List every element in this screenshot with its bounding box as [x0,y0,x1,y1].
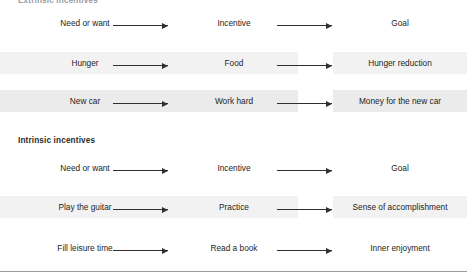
arrow-incentive-to-goal [277,206,332,213]
arrow-shaft [277,25,332,26]
cell-goal: Goal [333,157,467,179]
arrow-shaft [277,250,332,251]
diagram-row: Fill leisure time Read a book Inner enjo… [0,237,467,259]
arrow-source-to-incentive [113,247,168,254]
arrow-source-to-incentive [113,167,168,174]
diagram-row: Need or want Incentive Goal [0,157,467,179]
cell-goal: Hunger reduction [333,52,467,74]
arrow-incentive-to-goal [277,62,332,69]
arrowhead-icon [162,168,168,174]
arrow-incentive-to-goal [277,247,332,254]
cell-goal: Sense of accomplishment [333,196,467,218]
arrow-source-to-incentive [113,62,168,69]
arrow-incentive-to-goal [277,167,332,174]
arrow-shaft [277,103,332,104]
arrow-shaft [113,25,168,26]
arrowhead-icon [162,63,168,69]
arrow-shaft [113,170,168,171]
section-caption-extrinsic: Extrinsic incentives [18,0,98,5]
cell-goal: Money for the new car [333,90,467,112]
arrowhead-icon [326,101,332,107]
incentive-flow-diagram: Extrinsic incentives Need or want Incent… [0,0,467,277]
arrow-shaft [113,65,168,66]
arrow-shaft [277,65,332,66]
arrow-shaft [277,209,332,210]
arrowhead-icon [162,207,168,213]
arrow-incentive-to-goal [277,22,332,29]
arrowhead-icon [326,168,332,174]
diagram-row: Play the guitar Practice Sense of accomp… [0,196,467,218]
arrowhead-icon [326,248,332,254]
arrow-shaft [113,209,168,210]
cell-goal: Goal [333,12,467,34]
diagram-row: Hunger Food Hunger reduction [0,52,467,74]
arrow-source-to-incentive [113,206,168,213]
arrow-source-to-incentive [113,100,168,107]
arrowhead-icon [326,23,332,29]
arrowhead-icon [326,207,332,213]
arrow-shaft [113,250,168,251]
section-caption-intrinsic: Intrinsic incentives [18,136,95,145]
arrow-source-to-incentive [113,22,168,29]
arrow-shaft [113,103,168,104]
arrow-incentive-to-goal [277,100,332,107]
arrowhead-icon [162,101,168,107]
arrow-shaft [277,170,332,171]
cell-goal: Inner enjoyment [333,237,467,259]
figure-bottom-rule [0,271,467,272]
arrowhead-icon [162,23,168,29]
arrowhead-icon [326,63,332,69]
arrowhead-icon [162,248,168,254]
diagram-row: Need or want Incentive Goal [0,12,467,34]
diagram-row: New car Work hard Money for the new car [0,90,467,112]
